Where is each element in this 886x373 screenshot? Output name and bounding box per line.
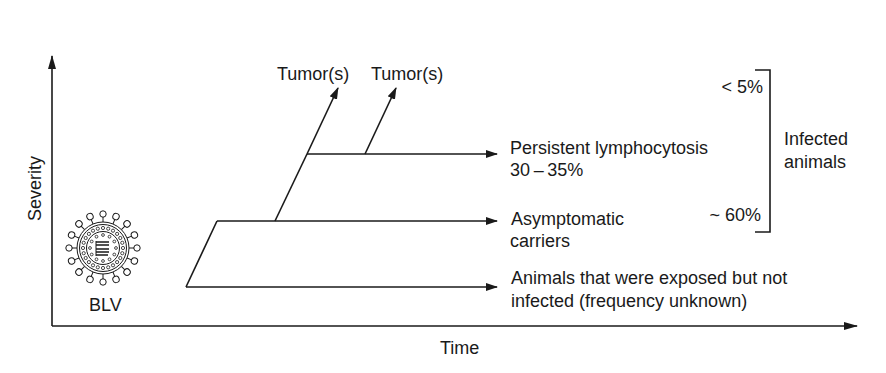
pathway-lines [186, 88, 497, 287]
exposed-line2: infected (frequency unknown) [511, 290, 747, 312]
lymphocytosis-branch [275, 154, 307, 221]
diagram-canvas [0, 0, 886, 373]
virus-label: BLV [89, 294, 122, 316]
persistent-line1: Persistent lymphocytosis [510, 137, 708, 159]
x-axis-label: Time [440, 338, 479, 359]
tumor-arrow-1 [307, 88, 338, 154]
infected-line2: animals [784, 151, 846, 173]
infected-line1: Infected [784, 128, 848, 150]
tumor-frequency-value: < 5% [680, 76, 763, 98]
asymptomatic-line1: Asymptomatic [511, 208, 624, 230]
infection-branch [186, 221, 217, 287]
tumor-label-2: Tumor(s) [371, 63, 443, 85]
asymptomatic-line2: carriers [510, 230, 570, 252]
y-axis-label: Severity [25, 151, 46, 227]
exposed-line1: Animals that were exposed but not [511, 267, 787, 289]
virus-particle-icon [66, 211, 140, 285]
carrier-frequency-value: ~ 60% [670, 204, 761, 226]
persistent-line2: 30 – 35% [510, 159, 583, 181]
tumor-label-1: Tumor(s) [277, 63, 349, 85]
tumor-arrow-2 [365, 88, 396, 154]
